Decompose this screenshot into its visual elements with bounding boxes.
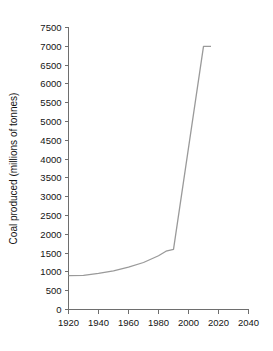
y-tick-label: 5000 [40, 116, 61, 127]
axis-titles: Coal produced (millions of tonnes) [8, 93, 19, 245]
y-tick-label: 2500 [40, 210, 61, 221]
x-tick-label: 2000 [178, 317, 199, 328]
x-tick-label: 1960 [118, 317, 139, 328]
coal-production-line-chart: 0500100015002000250030003500400045005000… [0, 0, 273, 351]
chart-canvas: 0500100015002000250030003500400045005000… [0, 0, 273, 351]
y-tick-label: 3500 [40, 172, 61, 183]
y-axis-group: 0500100015002000250030003500400045005000… [40, 22, 68, 315]
y-tick-label: 1500 [40, 248, 61, 259]
x-tick-label: 1980 [148, 317, 169, 328]
plot-area [69, 46, 212, 275]
y-tick-label: 5500 [40, 97, 61, 108]
y-tick-label: 6000 [40, 78, 61, 89]
x-tick-label: 2020 [208, 317, 229, 328]
y-tick-label: 500 [46, 285, 62, 296]
y-tick-label: 7500 [40, 22, 61, 33]
y-tick-label: 4000 [40, 154, 61, 165]
y-tick-label: 0 [56, 304, 61, 315]
x-tick-label: 1920 [58, 317, 79, 328]
x-tick-label: 1940 [88, 317, 109, 328]
data-series-line [69, 46, 212, 275]
y-tick-label: 4500 [40, 135, 61, 146]
y-tick-label: 2000 [40, 229, 61, 240]
x-tick-label: 2040 [238, 317, 259, 328]
y-tick-label: 7000 [40, 41, 61, 52]
x-axis-group: 1920194019601980200020202040 [58, 310, 259, 328]
y-axis-title: Coal produced (millions of tonnes) [8, 93, 19, 245]
y-tick-label: 1000 [40, 266, 61, 277]
y-tick-label: 6500 [40, 60, 61, 71]
y-tick-label: 3000 [40, 191, 61, 202]
